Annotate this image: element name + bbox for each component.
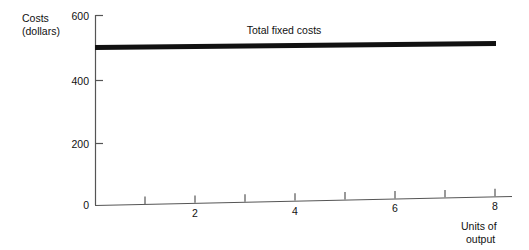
chart-canvas: 600 400 200 0 2 4 6 8 Total fixed costs … <box>0 0 529 250</box>
x-tick-label-4: 4 <box>292 205 298 217</box>
x-tick-label-6: 6 <box>392 202 398 214</box>
x-axis-title-line1: Units of <box>461 220 497 232</box>
y-axis-title-line1: Costs <box>22 12 49 24</box>
total-fixed-costs-line <box>95 44 496 48</box>
y-tick-label-200: 200 <box>71 138 89 150</box>
x-tick-label-2: 2 <box>192 207 198 219</box>
x-tick-label-8: 8 <box>492 200 498 212</box>
fixed-cost-chart: 600 400 200 0 2 4 6 8 Total fixed costs … <box>0 0 529 250</box>
total-fixed-costs-label: Total fixed costs <box>247 24 322 36</box>
y-tick-label-0: 0 <box>83 199 89 211</box>
x-axis-title-line2: output <box>466 233 495 245</box>
y-tick-group <box>96 16 104 144</box>
y-axis-title-line2: (dollars) <box>22 25 60 37</box>
x-tick-group <box>145 189 495 204</box>
y-tick-label-600: 600 <box>71 10 89 22</box>
y-tick-label-400: 400 <box>71 75 89 87</box>
x-axis-line <box>95 197 512 206</box>
